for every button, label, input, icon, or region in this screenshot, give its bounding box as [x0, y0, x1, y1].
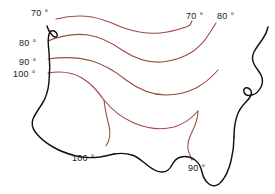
coastline-layer	[32, 26, 268, 186]
west-coast	[32, 26, 114, 158]
contour-line-100	[48, 72, 198, 129]
map-canvas	[0, 0, 275, 194]
label-100-left: 100 °	[13, 69, 36, 79]
contour-line-80	[48, 23, 216, 62]
east-coast	[234, 27, 268, 137]
label-80-topright: 80 °	[217, 11, 234, 21]
contour-line-90	[48, 58, 218, 95]
label-90-bottom: 90 °	[188, 163, 205, 173]
label-70-topleft: 70 °	[31, 8, 48, 18]
label-70-topright: 70 °	[186, 11, 203, 21]
contour-layer	[48, 16, 218, 160]
label-100-bottom: 100 °	[72, 153, 95, 163]
contour-line-90	[188, 111, 198, 160]
contour-line-70	[56, 16, 192, 33]
us-isotherm-contour-map: 70 °80 °90 °100 °70 °80 °100 °90 °	[0, 0, 275, 194]
label-90-left: 90 °	[19, 57, 36, 67]
gulf-coast	[114, 137, 234, 186]
contour-line-100	[104, 100, 110, 146]
label-80-left: 80 °	[19, 38, 36, 48]
